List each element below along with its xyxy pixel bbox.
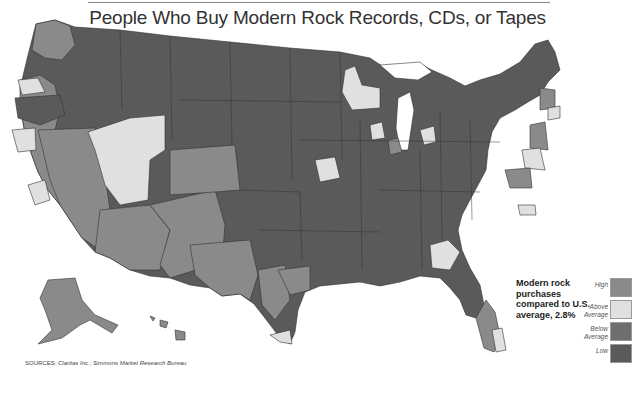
legend-item-above-average: Above Average bbox=[572, 300, 634, 322]
legend-label: Below Average bbox=[572, 325, 608, 340]
legend: High Above Average Below Average Low bbox=[572, 278, 634, 366]
legend-item-below-average: Below Average bbox=[572, 322, 634, 344]
legend-swatch-above-average bbox=[610, 300, 632, 319]
legend-label: Above Average bbox=[572, 303, 608, 318]
legend-swatch-below-average bbox=[610, 322, 632, 341]
us-map bbox=[0, 0, 635, 393]
legend-item-low: Low bbox=[572, 344, 634, 366]
legend-swatch-high bbox=[610, 278, 632, 297]
source-text: Claritas Inc.; Simmons Market Research B… bbox=[58, 360, 186, 366]
legend-label: High bbox=[595, 281, 608, 289]
legend-item-high: High bbox=[572, 278, 634, 300]
source-note: SOURCES: Claritas Inc.; Simmons Market R… bbox=[25, 360, 186, 366]
legend-swatch-low bbox=[610, 344, 632, 363]
legend-label: Low bbox=[596, 347, 608, 355]
source-prefix: SOURCES: bbox=[25, 360, 56, 366]
